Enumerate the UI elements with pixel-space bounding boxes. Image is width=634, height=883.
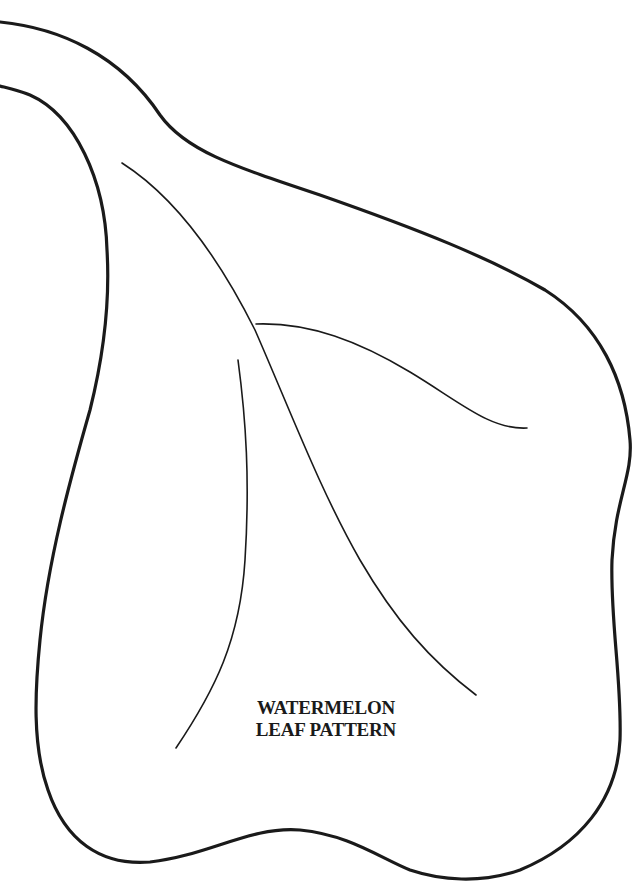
- left-vein: [176, 360, 247, 748]
- leaf-outline: [0, 22, 630, 879]
- leaf-drawing: [0, 0, 634, 883]
- leaf-pattern-page: WATERMELON LEAF PATTERN: [0, 0, 634, 883]
- midrib-vein: [122, 163, 476, 695]
- pattern-title-line2: LEAF PATTERN: [226, 719, 426, 741]
- pattern-title-line1: WATERMELON: [226, 697, 426, 719]
- pattern-title: WATERMELON LEAF PATTERN: [226, 697, 426, 741]
- right-vein: [256, 324, 527, 428]
